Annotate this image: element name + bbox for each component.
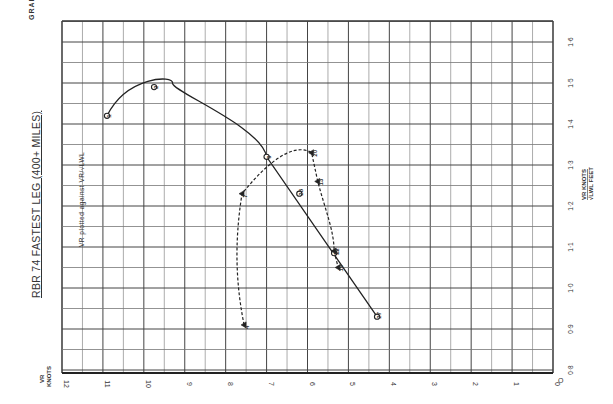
y-axis-title: VR KNOTS [581, 169, 587, 200]
x-tick-label: 8 [227, 382, 234, 386]
chart-labels: 1211109876543210VRKNOTS0·80·91·01·11·21·… [39, 37, 594, 388]
x-axis-title: VR [39, 374, 45, 383]
x-tick-label: 1 [513, 382, 520, 386]
y-tick-label: 0·9 [567, 324, 574, 334]
y-tick-label: 1·2 [567, 201, 574, 211]
x-tick-label: 7 [268, 382, 275, 386]
point-label: 13 [318, 178, 324, 185]
chart-title-text: RBR 74 FASTEST LEG (400+ MILES) [30, 111, 42, 298]
chart-subtitle: VR plotted against VR/√LWL [78, 152, 85, 247]
x-tick-label: 11 [104, 380, 111, 387]
x-tick-label: 3 [431, 382, 438, 386]
chart-title: RBR 74 FASTEST LEG (400+ MILES) [30, 111, 42, 298]
x-tick-label: 12 [63, 380, 70, 388]
x-tick-label: 6 [309, 382, 316, 386]
x-tick-label: 9 [186, 382, 193, 386]
chart-subtitle-text: VR plotted against VR/√LWL [78, 152, 85, 247]
chart-points: 1292816274720131219 [104, 85, 382, 329]
chart-canvas: 1292816274720131219 1211109876543210VRKN… [0, 0, 613, 404]
point-label: 20 [312, 149, 318, 156]
y-axis-title-2: √LWL FEET [588, 167, 594, 200]
y-tick-label: 1·3 [567, 160, 574, 170]
point-label: 19 [338, 264, 344, 271]
x-tick-label: 2 [472, 382, 479, 386]
point-label: 27 [376, 311, 382, 318]
y-tick-label: 1·1 [567, 242, 574, 252]
dashed-curve [237, 150, 338, 325]
x-tick-label: 4 [390, 382, 397, 386]
x-axis-title-2: KNOTS [46, 366, 52, 387]
x-tick-label: 5 [349, 382, 356, 386]
y-tick-label: 1·4 [567, 119, 574, 129]
graph-label-text: GRAPH 6 [28, 0, 35, 20]
graph-label: GRAPH 6 [28, 0, 35, 20]
y-tick-label: 1·0 [567, 283, 574, 293]
y-tick-label: 1·5 [567, 78, 574, 88]
point-label: 12 [334, 248, 340, 255]
y-tick-label: 1·6 [567, 37, 574, 47]
y-tick-label: 0·8 [567, 365, 574, 375]
chart-grid [62, 21, 553, 373]
svg-text:O: O [558, 377, 564, 384]
x-tick-label: 10 [145, 380, 152, 388]
point-label: 28 [298, 188, 304, 195]
